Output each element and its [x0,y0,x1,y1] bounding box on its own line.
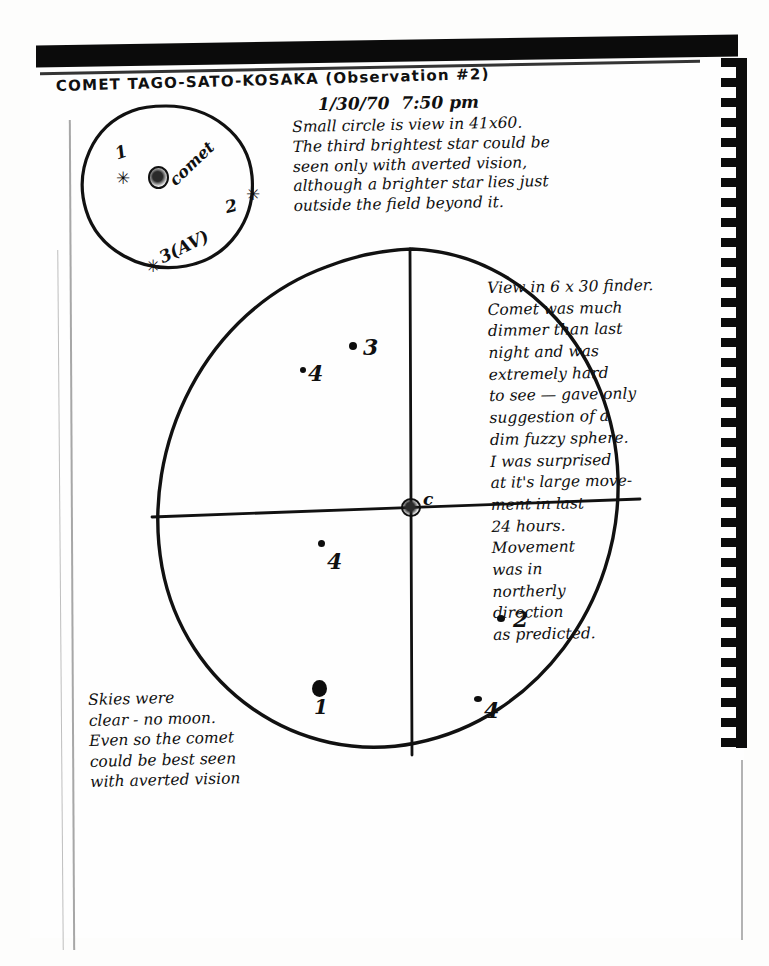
observation-datetime: 1/30/70 7:50 pm [318,93,479,115]
star-label-4: 4 [327,548,342,574]
torn-page-edge-right [721,58,747,748]
star-label-3: 3 [363,334,378,360]
star-marker-dot [349,342,357,350]
star-marker-cross: ✳ [246,186,260,203]
note-sky-conditions: Skies were clear - no moon. Even so the … [88,686,241,793]
star-marker-dot [474,696,482,702]
scanned-notebook-page: COMET TAGO-SATO-KOSAKA (Observation #2) … [0,0,769,966]
star-marker-cross: ✳ [116,170,130,187]
star-label-4: 4 [484,697,499,723]
star-marker-dot [300,367,306,373]
note-small-circle-description: Small circle is view in 41x60. The third… [292,113,551,217]
note-finder-observation: View in 6 x 30 finder. Comet was much di… [487,275,660,647]
star-label-4: 4 [308,360,323,386]
margin-rule-line [741,760,743,940]
comet-marker [401,498,421,517]
comet-marker [148,166,169,189]
comet-label: c [423,489,433,509]
star-label-1: 1 [314,695,328,719]
star-marker-dot [318,540,325,547]
